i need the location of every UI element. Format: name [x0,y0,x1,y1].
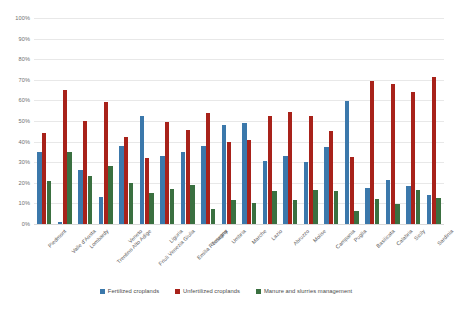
legend-label: Unfertilized croplands [183,288,240,294]
bar-group [137,18,158,224]
bar[interactable] [165,122,169,224]
y-axis-tick-label: 10% [19,200,31,206]
x-axis-label-cell: Lombardy [75,226,96,284]
x-axis-label-cell: Trentino Alto Adige [96,226,117,284]
legend-swatch-icon [256,289,261,294]
bar[interactable] [206,113,210,224]
x-axis-label-cell: Veneto [116,226,137,284]
bar[interactable] [288,112,292,224]
bar[interactable] [272,191,276,224]
y-axis-tick-label: 100% [15,15,30,21]
bar[interactable] [247,140,251,224]
x-axis-label-cell: Emilia Romagna [178,226,199,284]
bar[interactable] [47,181,51,224]
bar[interactable] [149,193,153,224]
chart-legend: Fertilized croplandsUnfertilized croplan… [0,288,452,294]
bar-group [116,18,137,224]
bar[interactable] [345,101,349,224]
bar[interactable] [181,152,185,224]
bar-group [198,18,219,224]
bar[interactable] [119,146,123,224]
bar[interactable] [324,147,328,224]
bar[interactable] [293,200,297,224]
bar[interactable] [201,146,205,224]
bar[interactable] [252,203,256,224]
bar[interactable] [283,156,287,224]
bar[interactable] [227,142,231,224]
legend-item[interactable]: Manure and slurries management [256,288,352,294]
x-axis-label-cell: Calabria [383,226,404,284]
x-axis-label-cell: Abruzzo [280,226,301,284]
bar[interactable] [129,183,133,224]
bar[interactable] [416,190,420,224]
y-axis-tick-label: 40% [19,139,31,145]
bar-group [301,18,322,224]
bar[interactable] [67,152,71,224]
bar[interactable] [436,198,440,224]
bar-groups [34,18,444,224]
bar[interactable] [190,185,194,224]
x-axis-label-cell: Liguria [157,226,178,284]
bar[interactable] [145,158,149,224]
bar[interactable] [222,125,226,224]
x-axis-label-cell: Tuscany [198,226,219,284]
bar[interactable] [263,161,267,224]
bar[interactable] [124,137,128,224]
legend-item[interactable]: Unfertilized croplands [175,288,240,294]
bar[interactable] [231,200,235,224]
bar[interactable] [58,222,62,224]
x-axis-label-cell: Friuli Venezia Giulia [137,226,158,284]
bar[interactable] [365,188,369,224]
bar[interactable] [432,77,436,224]
bar-group [219,18,240,224]
bar-group [280,18,301,224]
x-axis-labels: PiedmontValle d'AostaLombardyTrentino Al… [34,226,444,284]
bar[interactable] [268,116,272,224]
bar[interactable] [160,156,164,224]
bar[interactable] [211,209,215,224]
bar[interactable] [354,211,358,224]
legend-swatch-icon [175,289,180,294]
bar[interactable] [370,81,374,224]
bar[interactable] [88,176,92,224]
plot-wrapper: 0%10%20%30%40%50%60%70%80%90%100% [0,0,452,232]
bar-group [362,18,383,224]
bar[interactable] [304,162,308,224]
x-axis-label-cell: Molise [301,226,322,284]
bar[interactable] [170,189,174,224]
bar[interactable] [108,166,112,224]
bar[interactable] [386,180,390,224]
bar[interactable] [242,123,246,224]
x-axis-label-cell: Marche [239,226,260,284]
x-axis-label-cell: Valle d'Aosta [55,226,76,284]
bar[interactable] [99,197,103,224]
legend-item[interactable]: Fertilized croplands [100,288,159,294]
bar[interactable] [309,116,313,224]
y-axis-tick-label: 70% [19,77,31,83]
bar-group [75,18,96,224]
bar[interactable] [63,90,67,224]
bar[interactable] [395,204,399,224]
bar[interactable] [427,195,431,224]
bar[interactable] [391,84,395,224]
bar-group [424,18,445,224]
bar[interactable] [406,186,410,224]
bar-group [342,18,363,224]
bar[interactable] [83,121,87,224]
bar[interactable] [375,199,379,224]
bar[interactable] [104,102,108,224]
bar[interactable] [78,170,82,224]
bar[interactable] [350,157,354,224]
bar[interactable] [140,116,144,224]
y-axis-tick-label: 30% [19,159,31,165]
bar[interactable] [186,130,190,224]
bar[interactable] [37,152,41,224]
x-axis-label-cell: Umbria [219,226,240,284]
bar-group [321,18,342,224]
bar[interactable] [329,131,333,224]
bar[interactable] [411,92,415,224]
bar[interactable] [334,191,338,224]
legend-label: Manure and slurries management [264,288,352,294]
bar[interactable] [313,190,317,224]
bar[interactable] [42,133,46,224]
